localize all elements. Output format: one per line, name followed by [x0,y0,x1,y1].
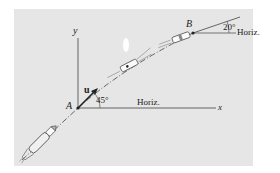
rocket-at-b-icon [157,31,191,48]
angle-label-20: 20° [223,23,236,32]
exhaust-puff-icon [123,38,129,52]
point-b-dot [191,31,194,34]
rocket-launcher-icon [17,123,59,165]
rocket-mid-icon [104,48,154,80]
point-a-dot [76,106,79,109]
x-axis-label: x [218,103,222,112]
horiz-label-b: Horiz. [237,28,260,37]
point-a-label: A [66,101,72,111]
unit-vector-label: u [84,85,90,95]
horiz-label-a: Horiz. [137,98,160,107]
point-b-label: B [186,19,192,29]
angle-label-45: 45° [96,96,109,105]
y-axis-label: y [73,26,77,36]
diagram-canvas [0,0,280,173]
